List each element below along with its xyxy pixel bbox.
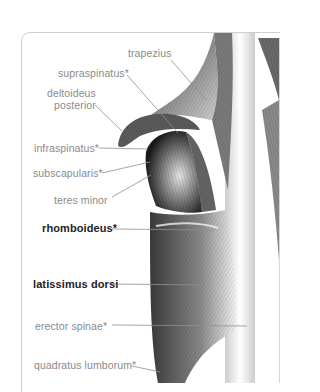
label-erector-spinae: erector spinae* [35, 320, 107, 332]
label-deltoideus-line2: posterior [47, 99, 96, 111]
label-rhomboideus: rhomboideus* [42, 222, 117, 234]
latissimus-dorsi-muscle [150, 210, 236, 383]
label-subscapularis: subscapularis* [33, 167, 103, 179]
leader-deltoideus [95, 105, 122, 131]
leader-subscapularis [102, 162, 150, 173]
label-supraspinatus: supraspinatus* [58, 67, 129, 79]
label-deltoideus-posterior: deltoideus posterior [47, 87, 96, 111]
label-trapezius: trapezius [128, 47, 172, 59]
label-latissimus-dorsi: latissimus dorsi [33, 278, 118, 290]
label-quadratus-lumborum: quadratus lumborum* [34, 359, 136, 371]
scapula-muscles [146, 131, 216, 213]
label-deltoideus-line1: deltoideus [47, 87, 96, 99]
label-infraspinatus: infraspinatus* [34, 142, 99, 154]
right-side-muscles [262, 100, 279, 260]
leader-teres-minor [112, 175, 151, 197]
label-teres-minor: teres minor [54, 194, 108, 206]
leader-infraspinatus [99, 148, 148, 149]
